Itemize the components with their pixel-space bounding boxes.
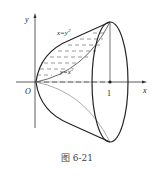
y-axis-label: y (24, 15, 29, 24)
x-axis-arrow-icon (142, 81, 147, 84)
lower-curve-label: y=x2 (59, 67, 74, 76)
origin-label: O (25, 87, 31, 96)
surface-bottom-inner (36, 82, 110, 142)
curve-y-equals-x-squared (36, 22, 110, 82)
point-one-dot (108, 80, 111, 83)
tick-label-one: 1 (107, 89, 111, 98)
solid-of-revolution-diagram: y x O 1 x=y2 y=x2 图 6-21 (0, 0, 154, 177)
figure-caption: 图 6-21 (61, 153, 93, 163)
upper-curve-label: x=y2 (56, 28, 71, 37)
surface-bottom-outer (36, 82, 110, 142)
curve-x-equals-y-squared (36, 22, 110, 82)
y-axis-arrow-icon (34, 13, 37, 18)
x-axis-label: x (142, 86, 147, 95)
